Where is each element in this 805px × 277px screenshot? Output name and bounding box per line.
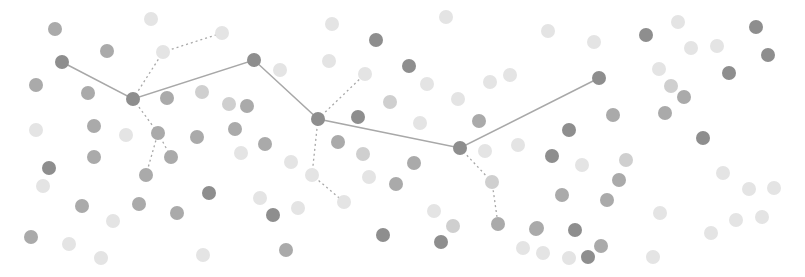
- node-dot: [664, 79, 678, 93]
- node-dot: [749, 20, 763, 34]
- node-dot: [36, 179, 50, 193]
- node-dot: [446, 219, 460, 233]
- node-dot: [196, 248, 210, 262]
- node-dot: [485, 175, 499, 189]
- node-dot: [767, 181, 781, 195]
- node-dot: [562, 251, 576, 265]
- network-graph: [0, 0, 805, 277]
- node-dot: [55, 55, 69, 69]
- node-dot: [451, 92, 465, 106]
- node-dot: [704, 226, 718, 240]
- node-dot: [568, 223, 582, 237]
- node-dot: [151, 126, 165, 140]
- node-dot: [240, 99, 254, 113]
- node-dot: [478, 144, 492, 158]
- node-dot: [126, 92, 140, 106]
- node-dot: [383, 95, 397, 109]
- node-dot: [266, 208, 280, 222]
- node-dot: [87, 119, 101, 133]
- node-dot: [215, 26, 229, 40]
- node-dot: [369, 33, 383, 47]
- node-dot: [575, 158, 589, 172]
- node-dot: [652, 62, 666, 76]
- node-dot: [562, 123, 576, 137]
- node-dot: [677, 90, 691, 104]
- node-dot: [75, 199, 89, 213]
- node-dot: [483, 75, 497, 89]
- node-dot: [600, 193, 614, 207]
- node-dot: [291, 201, 305, 215]
- node-dot: [646, 250, 660, 264]
- node-dot: [311, 112, 325, 126]
- node-dot: [351, 110, 365, 124]
- node-dot: [62, 237, 76, 251]
- node-dot: [362, 170, 376, 184]
- node-dot: [761, 48, 775, 62]
- node-dot: [716, 166, 730, 180]
- node-dot: [545, 149, 559, 163]
- node-dot: [170, 206, 184, 220]
- node-dot: [100, 44, 114, 58]
- node-dot: [132, 197, 146, 211]
- node-dot: [710, 39, 724, 53]
- node-dot: [106, 214, 120, 228]
- node-dot: [273, 63, 287, 77]
- node-dot: [81, 86, 95, 100]
- node-dot: [742, 182, 756, 196]
- node-dot: [376, 228, 390, 242]
- node-dot: [491, 217, 505, 231]
- node-dot: [472, 114, 486, 128]
- node-dot: [587, 35, 601, 49]
- node-dot: [42, 161, 56, 175]
- node-dot: [606, 108, 620, 122]
- node-dot: [356, 147, 370, 161]
- node-dot: [202, 186, 216, 200]
- node-dot: [253, 191, 267, 205]
- node-dot: [453, 141, 467, 155]
- node-dot: [389, 177, 403, 191]
- dotted-edge: [312, 119, 344, 202]
- node-dot: [420, 77, 434, 91]
- node-dot: [156, 45, 170, 59]
- node-dot: [195, 85, 209, 99]
- node-dot: [337, 195, 351, 209]
- node-dot: [144, 12, 158, 26]
- node-dot: [592, 71, 606, 85]
- node-dot: [119, 128, 133, 142]
- node-dot: [234, 146, 248, 160]
- node-dot: [29, 78, 43, 92]
- node-dot: [407, 156, 421, 170]
- node-dot: [639, 28, 653, 42]
- node-dot: [222, 97, 236, 111]
- node-dot: [94, 251, 108, 265]
- node-dot: [160, 91, 174, 105]
- node-dot: [555, 188, 569, 202]
- node-dot: [696, 131, 710, 145]
- node-dot: [619, 153, 633, 167]
- node-dot: [258, 137, 272, 151]
- node-dot: [331, 135, 345, 149]
- node-dot: [503, 68, 517, 82]
- dotted-branch-edges: [133, 33, 498, 224]
- node-dot: [322, 54, 336, 68]
- node-dot: [247, 53, 261, 67]
- network-illustration: [0, 0, 805, 277]
- node-dot: [325, 17, 339, 31]
- node-dot: [87, 150, 101, 164]
- node-dot: [279, 243, 293, 257]
- node-dot: [594, 239, 608, 253]
- node-dot: [541, 24, 555, 38]
- solid-edge: [62, 60, 599, 148]
- node-dot: [402, 59, 416, 73]
- node-dot: [305, 168, 319, 182]
- node-dot: [358, 67, 372, 81]
- node-dot: [516, 241, 530, 255]
- node-dot: [29, 123, 43, 137]
- node-dot: [511, 138, 525, 152]
- node-dot: [434, 235, 448, 249]
- node-dot: [722, 66, 736, 80]
- node-dot: [164, 150, 178, 164]
- node-dot: [190, 130, 204, 144]
- node-dot: [581, 250, 595, 264]
- node-dot: [729, 213, 743, 227]
